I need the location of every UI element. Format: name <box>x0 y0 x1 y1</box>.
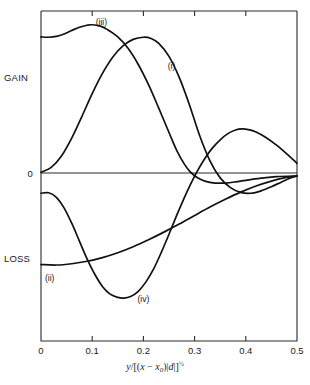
x-tick-label-0.5: 0.5 <box>290 345 303 356</box>
y-label-gain: GAIN <box>4 72 28 83</box>
x-tick-labels: 00.10.20.30.40.5 <box>38 345 303 356</box>
xlabel-minus: − <box>145 361 156 372</box>
curve-iii <box>41 25 297 183</box>
curve-ii <box>41 176 297 265</box>
figure-container: 00.10.20.30.40.5 GAIN0LOSS (i)(ii)(iii)(… <box>0 0 310 385</box>
y-label-zero: 0 <box>28 168 33 179</box>
xlabel-exponent: ½ <box>179 360 184 367</box>
x-tick-label-0: 0 <box>38 345 43 356</box>
curve-iv <box>41 129 297 298</box>
x-tick-label-0.1: 0.1 <box>86 345 99 356</box>
x-tick-label-0.4: 0.4 <box>239 345 252 356</box>
x-axis-label: y/[(x − x0)|d|]½ <box>0 358 310 376</box>
curve-label-ii: (ii) <box>45 273 55 283</box>
y-axis-labels: GAIN0LOSS <box>4 72 33 264</box>
curve-label-iv: (iv) <box>137 294 149 304</box>
curve-label-i: (i) <box>168 61 176 71</box>
y-label-loss: LOSS <box>4 253 30 264</box>
xlabel-slash: /[( <box>131 361 140 372</box>
chart-canvas: 00.10.20.30.40.5 GAIN0LOSS (i)(ii)(iii)(… <box>0 0 310 385</box>
x-tick-label-0.3: 0.3 <box>188 345 201 356</box>
x-tick-label-0.2: 0.2 <box>137 345 150 356</box>
curve-label-iii: (iii) <box>96 17 108 27</box>
